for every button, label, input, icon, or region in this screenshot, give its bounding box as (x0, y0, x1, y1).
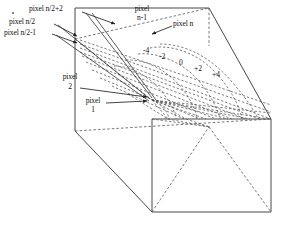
leader-arrow-pixel-n-half (54, 24, 77, 36)
scale-mark-minus2: -2 (159, 52, 165, 61)
pixel-ray (92, 70, 216, 119)
pixel-ray-fan (80, 40, 271, 127)
scale-mark-plus4: +4 (212, 70, 220, 79)
label-pixel-2-line1: pixel (55, 73, 85, 81)
hidden-edge-front-triangle-left (152, 127, 209, 212)
perspective-box-diagram (0, 0, 281, 226)
pixel-iso-arc (160, 44, 258, 119)
label-pixel-1-line2: 1 (78, 106, 108, 114)
guide-line-upper-b (92, 13, 156, 100)
stray-dot (12, 12, 14, 14)
hidden-edge-mid-horizontal (75, 119, 271, 131)
label-pixel-n-half-plus2: pixel n/2+2 (29, 5, 63, 13)
scale-mark-minus4: -4 (143, 46, 149, 55)
pixel-ray (80, 44, 271, 112)
label-pixel-n-half: pixel n/2 (9, 18, 35, 26)
label-pixel-n: pixel n (173, 20, 193, 28)
scale-mark-zero: 0 (179, 58, 183, 67)
box-edge-left-bottom-diagonal (75, 131, 152, 212)
label-pixel-2-line2: 2 (55, 83, 85, 91)
leader-arrow-pixel-n-half-minus1 (52, 34, 77, 43)
leader-arrow-pixel-n (152, 26, 172, 34)
label-pixel-n-half-minus1: pixel n/2-1 (4, 29, 36, 37)
box-edge-top-right-diagonal (209, 8, 271, 119)
scale-mark-plus2: +2 (194, 64, 202, 73)
hidden-edge-front-triangle-right (209, 127, 271, 212)
label-pixel-n-minus1-line2: n-1 (127, 14, 157, 22)
